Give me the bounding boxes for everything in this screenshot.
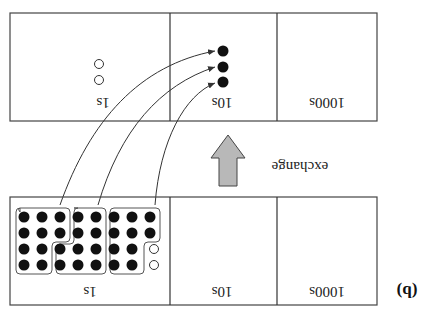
exchange-arrow-icon (211, 135, 245, 186)
transfer-arrow-group-1 (60, 51, 215, 205)
after-tens-counter (218, 62, 229, 73)
before-place-value-chart: 1s 10s 1000s (10, 197, 377, 305)
panel-tag: (b) (397, 282, 418, 301)
after-place-value-chart: 1s 10s 1000s (10, 13, 377, 121)
exchange-indicator: exchange (211, 135, 328, 186)
before-ones-label: 1s (83, 284, 97, 300)
place-value-exchange-diagram: 1s 10s 1000s exchange (0, 0, 430, 312)
after-ones-open-counter (95, 76, 104, 85)
before-ones-counters (19, 212, 156, 271)
transfer-arrow-group-2 (98, 67, 215, 205)
after-tens-counter (218, 46, 229, 57)
before-tens-label: 10s (211, 284, 232, 300)
after-ones-open-counter (95, 60, 104, 69)
after-thousands-label: 1000s (309, 95, 345, 111)
after-ones-label: 1s (96, 95, 110, 111)
before-ones-open-counter (150, 261, 159, 270)
after-tens-counter (218, 77, 229, 88)
transfer-arrow-group-3 (155, 83, 215, 205)
before-thousands-label: 1000s (309, 284, 345, 300)
after-tens-label: 10s (211, 95, 232, 111)
transfer-arrows (60, 51, 215, 205)
before-ones-open-counter (150, 245, 159, 254)
exchange-label: exchange (271, 159, 328, 175)
